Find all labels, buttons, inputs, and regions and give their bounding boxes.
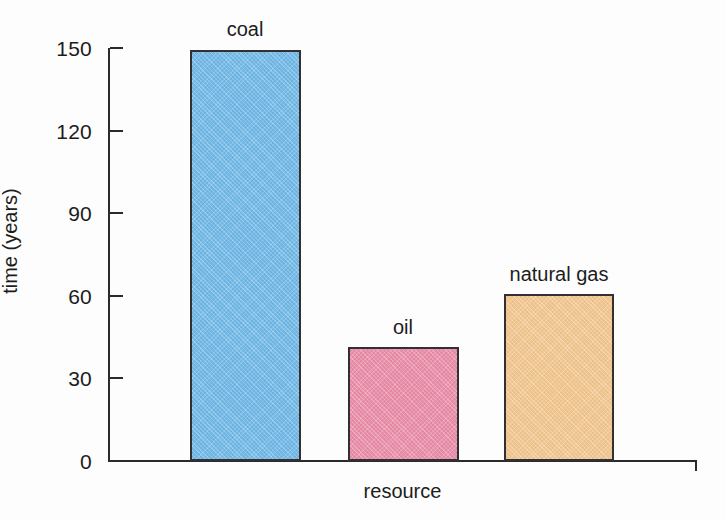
y-axis-tick-30	[110, 377, 123, 379]
y-axis-label-60: 60	[22, 286, 92, 307]
y-axis-label-0: 0	[22, 451, 92, 472]
bar-natural-gas	[504, 294, 614, 461]
y-axis-tick-60	[110, 295, 123, 297]
y-axis-label-120: 120	[22, 121, 92, 142]
y-axis-label-90: 90	[22, 203, 92, 224]
bar-oil	[348, 347, 459, 461]
y-axis-tick-120	[110, 130, 123, 132]
x-axis-title: resource	[0, 480, 725, 503]
y-axis-line	[108, 48, 110, 462]
y-axis-title: time (years)	[0, 188, 22, 322]
x-axis-end-tick	[695, 460, 697, 471]
y-axis-label-150: 150	[22, 38, 92, 59]
bar-label-natural-gas: natural gas	[510, 263, 609, 286]
y-axis-tick-150	[110, 47, 123, 49]
y-axis-label-30: 30	[22, 368, 92, 389]
bar-label-coal: coal	[227, 18, 264, 41]
bar-coal	[190, 50, 301, 461]
y-axis-tick-90	[110, 212, 123, 214]
bar-chart-figure: 150 120 90 60 30 0 time (years) resource…	[0, 0, 725, 520]
bar-label-oil: oil	[393, 316, 413, 339]
